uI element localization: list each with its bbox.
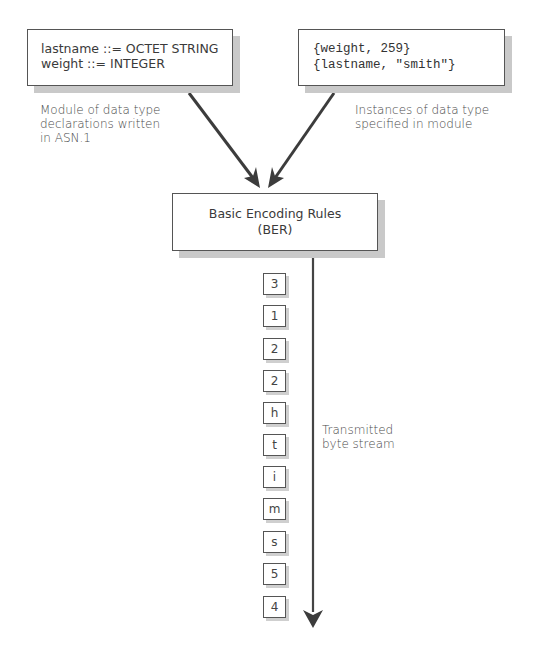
arrow-module-to-ber: [189, 93, 260, 188]
module-caption-line-1: Module of data type: [40, 103, 160, 117]
arrow-instances-to-ber: [268, 93, 334, 188]
byte-box: i: [263, 466, 286, 488]
instances-caption-line-1: Instances of data type: [355, 103, 489, 117]
module-line-1: lastname ::= OCTET STRING: [41, 41, 219, 56]
byte-stream-label-line-1: Transmitted: [322, 423, 395, 437]
byte-stream-label-line-2: byte stream: [322, 437, 395, 451]
byte-box: m: [263, 498, 286, 520]
module-caption: Module of data type declarations written…: [40, 103, 160, 145]
instance-line-2: {lastname, "smith"}: [313, 57, 456, 73]
byte-box: 2: [263, 338, 286, 360]
module-line-2: weight ::= INTEGER: [41, 56, 165, 71]
byte-box: 1: [263, 305, 286, 327]
byte-box: 3: [263, 273, 286, 295]
ber-line-1: Basic Encoding Rules: [173, 206, 377, 221]
byte-stream-label: Transmitted byte stream: [322, 423, 395, 451]
asn1-module-box: lastname ::= OCTET STRING weight ::= INT…: [27, 29, 233, 86]
instances-caption: Instances of data type specified in modu…: [355, 103, 489, 131]
module-caption-line-2: declarations written: [40, 117, 160, 131]
byte-box: 4: [263, 596, 286, 618]
module-caption-line-3: in ASN.1: [40, 131, 160, 145]
instance-line-1: {weight, 259}: [313, 41, 411, 57]
byte-box: s: [263, 531, 286, 553]
instances-caption-line-2: specified in module: [355, 117, 489, 131]
ber-encoder-box: Basic Encoding Rules (BER): [172, 193, 378, 251]
byte-box: t: [263, 434, 286, 456]
byte-box: 2: [263, 370, 286, 392]
arrow-byte-stream: [303, 258, 323, 628]
ber-line-2: (BER): [173, 222, 377, 237]
byte-box: 5: [263, 563, 286, 585]
byte-box: h: [263, 402, 286, 424]
instances-box: {weight, 259} {lastname, "smith"}: [298, 29, 505, 86]
